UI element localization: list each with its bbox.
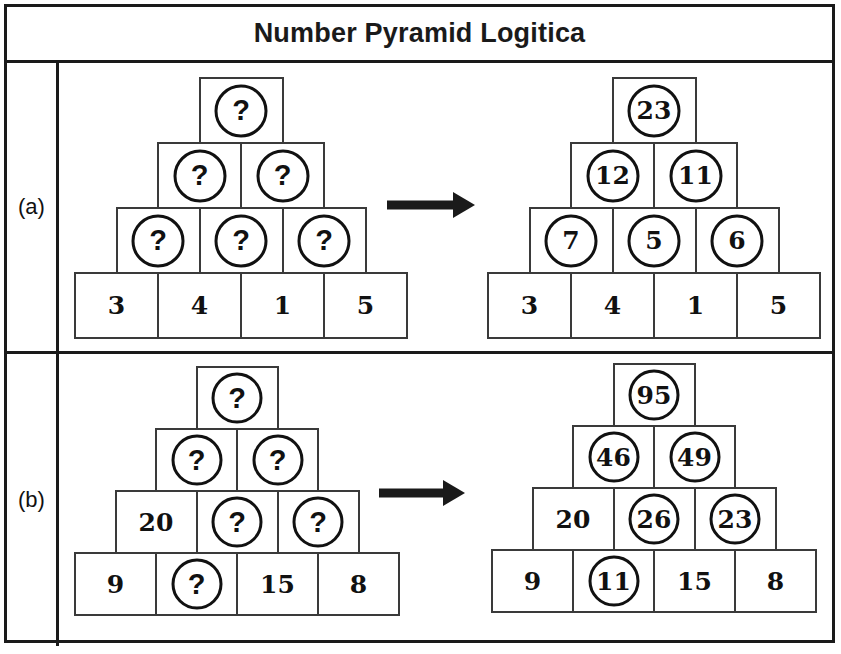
pyramid-cell-unknown[interactable]: ? [155,552,238,616]
pyramid-cell-given[interactable]: 4 [157,272,242,339]
pyramid-cell-value: 11 [678,163,713,188]
pyramid-cell-unknown[interactable]: ? [240,142,325,209]
pyramid-cell-given[interactable]: 20 [532,487,615,551]
pyramid-cell-value: ? [274,161,292,190]
pyramid-cell-unknown[interactable]: 46 [572,425,655,489]
pyramid-level: 95 [491,363,817,427]
pyramid-cell-unknown[interactable]: 26 [613,487,696,551]
pyramid-cell-unknown[interactable]: 49 [653,425,736,489]
pyramid-cell-given[interactable]: 1 [653,272,738,339]
pyramid-level: 20?? [74,490,400,554]
row-label-cell-a: (a) [7,63,59,351]
pyramid-cell-given[interactable]: 9 [74,552,157,616]
pyramid-cell-unknown[interactable]: 5 [612,207,697,274]
puzzle-rows: (a) ??????3415 2312117563415 (b) ???20??… [7,63,832,640]
pyramid-cell-value: 15 [677,569,712,594]
pyramid-level: ??? [74,207,408,274]
solved-pyramid-b: 954649202623911158 [491,363,817,613]
pyramid-cell-unknown[interactable]: ? [236,428,319,492]
row-content-a: ??????3415 2312117563415 [59,63,832,351]
pyramid-cell-unknown[interactable]: ? [196,490,279,554]
pyramid-cell-given[interactable]: 3 [487,272,572,339]
pyramid-cell-given[interactable]: 5 [323,272,408,339]
pyramid-level: 202623 [491,487,817,551]
pyramid-cell-value: 15 [260,572,295,597]
pyramid-level: 23 [487,77,821,144]
pyramid-cell-value: ? [188,446,206,475]
pyramid-cell-value: 11 [596,569,631,594]
pyramid-cell-unknown[interactable]: ? [199,207,284,274]
pyramid-cell-value: 8 [767,569,784,594]
pyramid-cell-value: 23 [718,507,753,532]
pyramid-cell-value: 3 [108,293,125,318]
puzzle-row-b: (b) ???20??9?158 954649202623911158 [7,354,832,646]
pyramid-cell-given[interactable]: 9 [491,549,574,613]
pyramid-cell-value: ? [309,508,327,537]
pyramid-level: ?? [74,142,408,209]
row-label-a: (a) [18,194,45,220]
pyramid-cell-unknown[interactable]: ? [116,207,201,274]
pyramid-cell-value: 6 [728,228,745,253]
pyramid-cell-unknown[interactable]: ? [199,77,284,144]
pyramid-level: 4649 [491,425,817,489]
pyramid-level: 1211 [487,142,821,209]
row-label-cell-b: (b) [7,354,59,646]
pyramid-cell-value: 26 [637,507,672,532]
unsolved-pyramid-a: ??????3415 [74,77,408,339]
pyramid-cell-value: ? [149,226,167,255]
pyramid-cell-given[interactable]: 5 [736,272,821,339]
row-content-b: ???20??9?158 954649202623911158 [59,354,832,646]
pyramid-level: 3415 [487,272,821,339]
pyramid-cell-given[interactable]: 4 [570,272,655,339]
pyramid-cell-value: 9 [524,569,541,594]
pyramid-cell-unknown[interactable]: 7 [529,207,614,274]
pyramid-level: ? [74,366,400,430]
right-arrow-icon [379,488,467,498]
pyramid-cell-unknown[interactable]: 11 [572,549,655,613]
pyramid-cell-value: 5 [770,293,787,318]
pyramid-cell-given[interactable]: 15 [653,549,736,613]
pyramid-cell-given[interactable]: 1 [240,272,325,339]
worksheet-frame: Number Pyramid Logitica (a) ??????3415 2… [4,4,835,643]
pyramid-cell-unknown[interactable]: 11 [653,142,738,209]
pyramid-cell-unknown[interactable]: ? [282,207,367,274]
pyramid-cell-given[interactable]: 8 [734,549,817,613]
pyramid-level: ? [74,77,408,144]
pyramid-cell-value: 5 [357,293,374,318]
pyramid-cell-value: 7 [562,228,579,253]
pyramid-level: ?? [74,428,400,492]
arrow-head [443,480,465,506]
puzzle-row-a: (a) ??????3415 2312117563415 [7,63,832,354]
pyramid-cell-unknown[interactable]: ? [277,490,360,554]
pyramid-cell-unknown[interactable]: 12 [570,142,655,209]
pyramid-cell-value: 23 [637,98,672,123]
pyramid-cell-given[interactable]: 3 [74,272,159,339]
pyramid-cell-value: ? [228,508,246,537]
pyramid-cell-value: 20 [556,507,591,532]
pyramid-cell-value: 12 [595,163,630,188]
pyramid-cell-unknown[interactable]: 6 [695,207,780,274]
pyramid-cell-value: ? [191,161,209,190]
pyramid-cell-value: ? [269,446,287,475]
pyramid-level: 3415 [74,272,408,339]
arrow-head [453,192,475,218]
row-label-b: (b) [18,487,45,513]
pyramid-cell-unknown[interactable]: ? [155,428,238,492]
pyramid-cell-unknown[interactable]: 95 [613,363,696,427]
pyramid-cell-given[interactable]: 8 [317,552,400,616]
arrow-shaft [379,489,447,498]
pyramid-cell-value: 4 [191,293,208,318]
pyramid-cell-unknown[interactable]: 23 [694,487,777,551]
pyramid-cell-given[interactable]: 15 [236,552,319,616]
pyramid-level: 9?158 [74,552,400,616]
pyramid-cell-value: 8 [350,572,367,597]
pyramid-cell-unknown[interactable]: ? [157,142,242,209]
pyramid-cell-unknown[interactable]: 23 [612,77,697,144]
arrow-shaft [387,201,457,210]
pyramid-cell-unknown[interactable]: ? [196,366,279,430]
pyramid-cell-value: ? [232,226,250,255]
pyramid-cell-value: 95 [637,383,672,408]
pyramid-cell-given[interactable]: 20 [115,490,198,554]
pyramid-cell-value: 1 [274,293,291,318]
unsolved-pyramid-b: ???20??9?158 [74,366,400,616]
